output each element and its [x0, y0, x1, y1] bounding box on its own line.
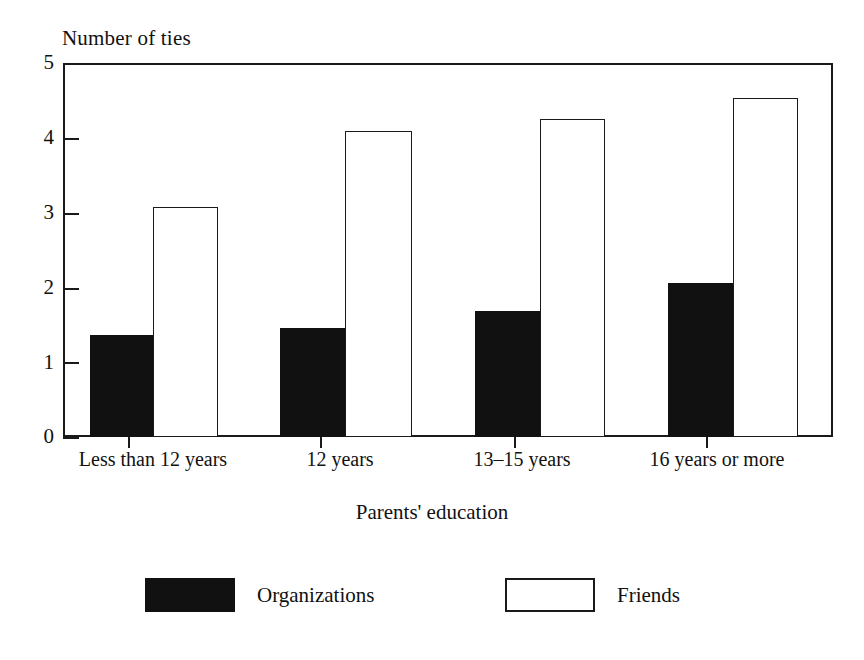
legend-label-friends: Friends — [617, 583, 680, 608]
y-tick-label-5: 5 — [14, 52, 54, 73]
y-tick-label-2: 2 — [14, 277, 54, 298]
x-tick-mark-3 — [514, 437, 516, 448]
y-tick-label-4: 4 — [14, 127, 54, 148]
legend-label-organizations: Organizations — [257, 583, 374, 608]
bar-friends-less-than-12-years — [153, 207, 218, 437]
legend-entry-organizations: Organizations — [145, 578, 374, 612]
legend-swatch-friends-icon — [505, 578, 595, 612]
y-tick-mark-1 — [63, 362, 79, 364]
y-tick-mark-0 — [63, 437, 79, 439]
bar-organizations-12-years — [280, 328, 345, 437]
bar-organizations-16-years-or-more — [668, 283, 733, 437]
legend-entry-friends: Friends — [505, 578, 680, 612]
y-axis-title: Number of ties — [62, 26, 191, 51]
y-tick-mark-2 — [63, 288, 79, 290]
x-tick-label-less-than-12-years: Less than 12 years — [38, 448, 268, 471]
chart-legend: Organizations Friends — [0, 578, 864, 628]
legend-swatch-organizations-icon — [145, 578, 235, 612]
x-tick-label-16-years-or-more: 16 years or more — [602, 448, 832, 471]
x-tick-mark-1 — [128, 437, 130, 448]
y-tick-label-1: 1 — [14, 352, 54, 373]
x-tick-mark-2 — [320, 437, 322, 448]
y-tick-label-3: 3 — [14, 202, 54, 223]
bar-friends-12-years — [345, 131, 412, 437]
y-tick-mark-3 — [63, 213, 79, 215]
x-tick-mark-4 — [706, 437, 708, 448]
bar-chart-figure: Number of ties 5 4 3 2 1 0 Less than 12 … — [0, 0, 864, 660]
bar-friends-13-15-years — [540, 119, 605, 437]
bar-friends-16-years-or-more — [733, 98, 798, 437]
bar-organizations-13-15-years — [475, 311, 540, 437]
y-tick-label-0: 0 — [14, 426, 54, 447]
x-tick-label-12-years: 12 years — [250, 448, 430, 471]
bar-organizations-less-than-12-years — [90, 335, 153, 437]
x-tick-label-13-15-years: 13–15 years — [432, 448, 612, 471]
bars-layer — [63, 63, 833, 437]
x-axis-title: Parents' education — [0, 500, 864, 525]
y-tick-mark-4 — [63, 138, 79, 140]
